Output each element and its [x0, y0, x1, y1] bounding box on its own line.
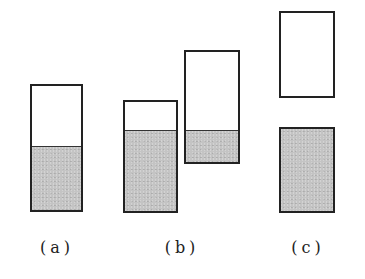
panel-c-label: (c)	[291, 238, 324, 257]
panel-c-empty-container	[279, 11, 335, 98]
panel-b-left-filled-region	[125, 130, 176, 211]
panel-c-filled-container	[279, 127, 335, 213]
panel-c-filled-region	[281, 129, 333, 211]
panel-b-right-filled-region	[186, 130, 238, 162]
panel-b-label: (b)	[165, 238, 200, 257]
panel-a-filled-region	[32, 146, 81, 210]
panel-a-container	[30, 84, 83, 212]
panel-b-left-container	[123, 100, 178, 213]
panel-b-right-container	[184, 50, 240, 164]
panel-a-label: (a)	[40, 238, 74, 257]
